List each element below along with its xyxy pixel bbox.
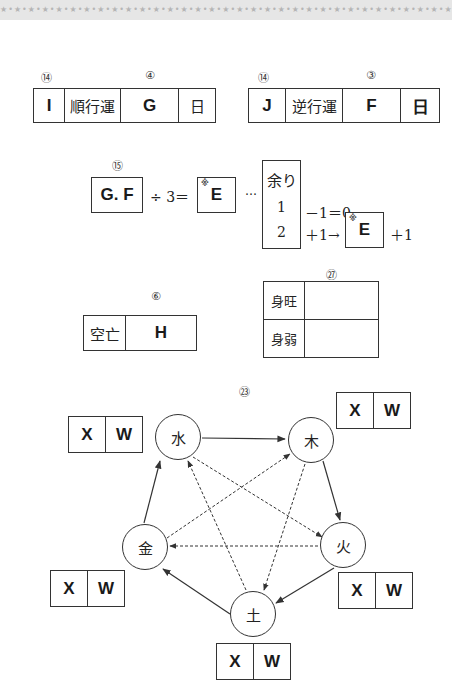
xw-water-x: X <box>69 417 106 452</box>
edge-wood-earth <box>264 464 305 590</box>
xw-fire-x: X <box>339 573 376 608</box>
node-water-char: 水 <box>171 427 186 448</box>
edge-water-wood <box>202 438 285 439</box>
xw-earth-x: X <box>217 644 254 679</box>
edge-fire-earth <box>276 568 334 603</box>
xw-wood-x: X <box>337 393 374 428</box>
edge-metal-water <box>144 461 160 523</box>
node-metal: 金 <box>122 524 168 570</box>
xw-wood-w: W <box>374 393 410 428</box>
xw-box-metal: X W <box>50 570 125 607</box>
edge-earth-metal <box>163 569 230 614</box>
xw-metal-x: X <box>51 571 88 606</box>
edge-earth-water <box>188 461 246 590</box>
xw-metal-w: W <box>88 571 124 606</box>
node-wood-char: 木 <box>304 430 319 451</box>
edge-wood-fire <box>323 461 340 520</box>
node-fire-char: 火 <box>336 535 351 556</box>
node-water: 水 <box>155 414 201 460</box>
node-wood: 木 <box>288 417 334 463</box>
node-earth-char: 土 <box>246 604 261 625</box>
xw-earth-w: W <box>254 644 290 679</box>
xw-box-wood: X W <box>336 392 411 429</box>
xw-box-water: X W <box>68 416 143 453</box>
edge-metal-wood <box>167 454 290 538</box>
xw-water-w: W <box>106 417 142 452</box>
node-fire: 火 <box>320 522 366 568</box>
node-metal-char: 金 <box>138 537 153 558</box>
node-earth: 土 <box>230 591 276 637</box>
xw-box-fire: X W <box>338 572 413 609</box>
xw-fire-w: W <box>376 573 412 608</box>
edge-water-fire <box>193 457 322 537</box>
xw-box-earth: X W <box>216 643 291 680</box>
